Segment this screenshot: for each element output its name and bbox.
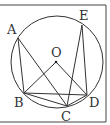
segment-ab <box>18 38 24 93</box>
segment-od <box>56 62 87 95</box>
label-a: A <box>6 22 17 37</box>
center-point-o <box>55 61 58 64</box>
circle-diagram: A B C D E O <box>0 0 110 125</box>
label-b: B <box>14 95 24 110</box>
geometry-figure: A B C D E O <box>0 0 110 125</box>
label-e: E <box>79 8 89 23</box>
segment-bd <box>24 93 87 95</box>
segment-ed <box>82 25 87 95</box>
label-d: D <box>89 95 99 110</box>
label-c: C <box>61 109 71 124</box>
segment-bo <box>24 62 56 93</box>
segment-cd <box>67 95 87 106</box>
label-o: O <box>51 45 62 60</box>
segment-ce <box>67 25 82 106</box>
segments-group <box>18 25 87 106</box>
